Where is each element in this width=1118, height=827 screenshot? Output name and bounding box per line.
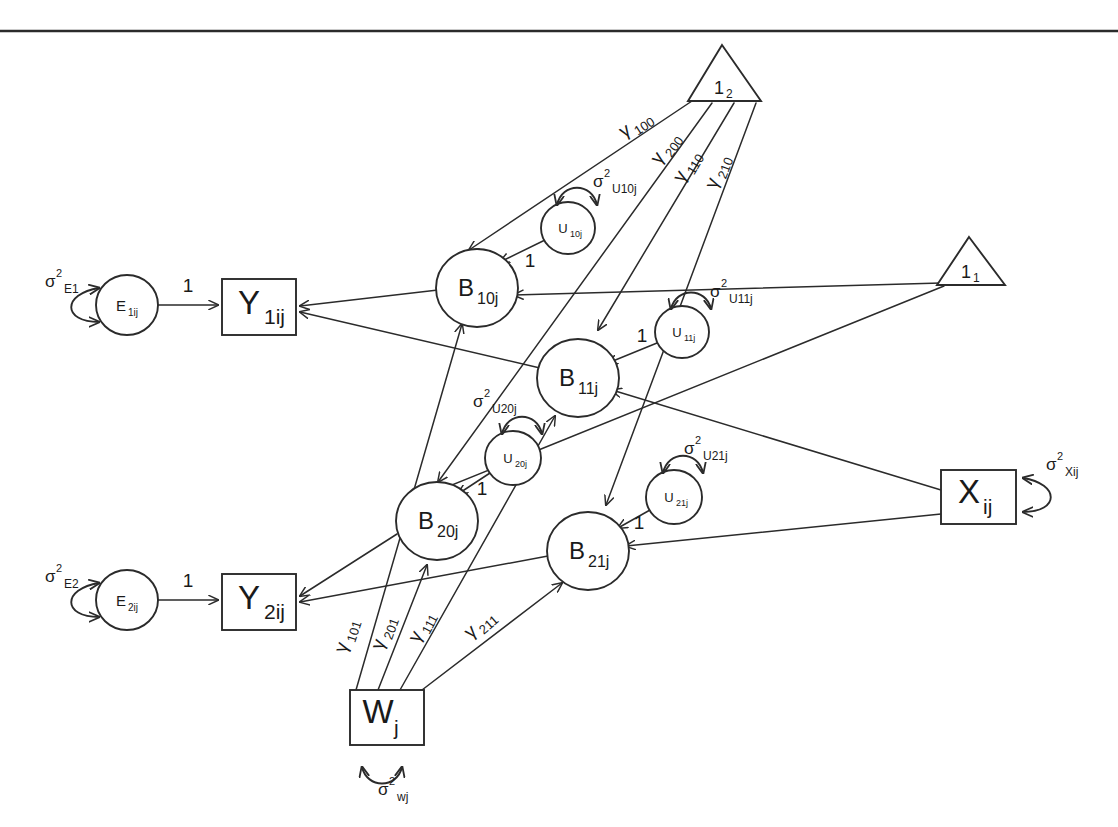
var-u11j-sub: U11j	[729, 292, 753, 306]
wj-label-base: W	[362, 693, 394, 730]
xij-label-sub: ij	[983, 495, 992, 518]
var-wj-sup: 2	[389, 775, 395, 787]
label-var-u20j: σ 2 U20j	[473, 387, 517, 416]
one2-triangle	[688, 45, 761, 101]
label-var-xij: σ 2 Xij	[1046, 450, 1078, 479]
u10j-ellipse	[541, 202, 595, 254]
node-y2ij: Y 2ij	[222, 574, 296, 630]
node-e2ij: E 2ij	[96, 570, 158, 630]
node-xij: X ij	[941, 470, 1016, 524]
node-u21j: U 21j	[646, 470, 702, 524]
g101-sub: 101	[344, 619, 365, 644]
var-xij-sigma: σ	[1046, 455, 1057, 474]
u20j-label-base: U	[503, 451, 512, 466]
b10j-label-base: B	[458, 274, 474, 301]
e2ij-ellipse	[96, 570, 158, 630]
b11j-label-sub: 11j	[578, 380, 598, 397]
one2-label-sub: 2	[726, 87, 733, 101]
g100-sub: 100	[631, 114, 657, 138]
label-g211: γ 211	[460, 604, 502, 645]
var-e1-sigma: σ	[45, 272, 56, 291]
b10j-label-sub: 10j	[477, 290, 498, 307]
node-b21j: B 21j	[547, 512, 629, 590]
node-y1ij: Y 1ij	[222, 279, 296, 335]
b20j-label-base: B	[418, 507, 434, 534]
var-u21j-sup: 2	[695, 434, 701, 446]
path-b10j-to-y1ij	[300, 290, 438, 306]
one2-label-base: 1	[714, 78, 724, 98]
u10j-label-base: U	[558, 221, 567, 236]
g211-sub: 211	[476, 612, 501, 637]
var-wj-sigma: σ	[378, 780, 389, 799]
var-u10j-sub: U10j	[612, 182, 637, 196]
b21j-label-base: B	[569, 537, 585, 564]
path-b21j-to-y2ij	[300, 556, 548, 602]
path-diagram-canvas: Y 1ij Y 2ij X ij W j B 10j	[0, 0, 1118, 827]
path-g211-line	[422, 583, 562, 690]
node-constant-one-level1: 1 1	[937, 237, 1005, 285]
u11j-ellipse	[655, 306, 709, 358]
var-u10j-sigma: σ	[593, 172, 604, 191]
var-wj-sub: wj	[396, 790, 408, 804]
label-load-u20-b20: 1	[477, 478, 488, 499]
label-g101: γ 101	[330, 616, 365, 657]
label-var-e2: σ 2 E2	[45, 562, 79, 591]
label-g200: γ 200	[646, 127, 687, 170]
e1ij-label-base: E	[116, 297, 126, 314]
g111-sub: 111	[419, 612, 442, 636]
var-xij-sub: Xij	[1065, 465, 1078, 479]
path-b11j-to-y1ij	[300, 312, 540, 368]
e2ij-label-sub: 2ij	[128, 602, 138, 613]
b20j-label-sub: 20j	[437, 523, 458, 540]
label-var-u10j: σ 2 U10j	[593, 167, 637, 196]
label-var-wj: σ 2 wj	[378, 775, 408, 804]
b11j-label-base: B	[559, 364, 575, 391]
node-e1ij: E 1ij	[96, 275, 158, 335]
sem-path-diagram: Y 1ij Y 2ij X ij W j B 10j	[0, 0, 1118, 827]
var-u20j-sub: U20j	[492, 402, 517, 416]
label-var-e1: σ 2 E1	[45, 267, 79, 296]
u21j-ellipse	[646, 470, 702, 524]
y2ij-label-base: Y	[238, 579, 260, 616]
var-e2-sup: 2	[56, 562, 62, 574]
loop-var-xij	[1023, 478, 1051, 512]
u11j-label-base: U	[672, 325, 681, 340]
var-u21j-sigma: σ	[684, 439, 695, 458]
node-u11j: U 11j	[655, 306, 709, 358]
label-load-u10-b10: 1	[525, 250, 536, 271]
one1-label-sub: 1	[973, 271, 980, 285]
y1ij-label-sub: 1ij	[264, 305, 285, 328]
node-b10j: B 10j	[436, 249, 518, 327]
var-u11j-sup: 2	[721, 277, 727, 289]
b21j-ellipse	[547, 512, 629, 590]
b11j-ellipse	[537, 339, 619, 417]
u10j-label-sub: 10j	[570, 229, 582, 239]
node-constant-one-level2: 1 2	[688, 45, 761, 101]
label-load-e2-y2: 1	[183, 570, 194, 591]
u21j-label-sub: 21j	[676, 498, 688, 508]
g210-sub: 210	[715, 155, 737, 181]
var-e2-sub: E2	[64, 577, 79, 591]
var-e1-sub: E1	[64, 282, 79, 296]
label-var-u11j: σ 2 U11j	[710, 277, 753, 306]
g100-symbol: γ	[615, 118, 635, 141]
node-b11j: B 11j	[537, 339, 619, 417]
node-u10j: U 10j	[541, 202, 595, 254]
var-e2-sigma: σ	[45, 567, 56, 586]
var-u20j-sup: 2	[484, 387, 490, 399]
var-u20j-sigma: σ	[473, 392, 484, 411]
var-u21j-sub: U21j	[703, 449, 728, 463]
b10j-ellipse	[436, 249, 518, 327]
node-b20j: B 20j	[396, 482, 478, 560]
b20j-ellipse	[396, 482, 478, 560]
var-u11j-sigma: σ	[710, 282, 721, 301]
u21j-label-base: U	[664, 490, 673, 505]
one1-label-base: 1	[961, 262, 971, 282]
var-u10j-sup: 2	[604, 167, 610, 179]
path-u10j-to-b10j	[500, 240, 545, 262]
label-g210: γ 210	[700, 151, 736, 192]
g200-sub: 200	[662, 134, 687, 160]
wj-label-sub: j	[393, 716, 399, 739]
label-load-e1-y1: 1	[183, 275, 194, 296]
node-u20j: U 20j	[485, 431, 541, 485]
